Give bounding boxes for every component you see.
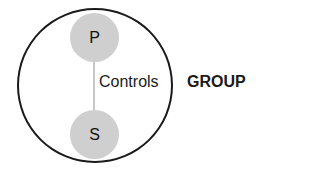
node-s-label: S — [89, 126, 100, 144]
group-label: GROUP — [187, 73, 246, 91]
node-s: S — [70, 110, 119, 159]
node-p-label: P — [89, 29, 100, 47]
node-p: P — [70, 13, 119, 62]
controls-edge — [93, 55, 95, 117]
edge-label: Controls — [99, 73, 159, 91]
